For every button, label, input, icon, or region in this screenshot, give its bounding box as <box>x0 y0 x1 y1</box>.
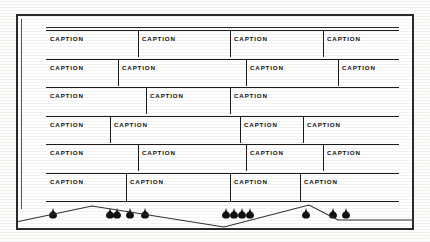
caption-segment[interactable]: CAPTION <box>146 87 230 116</box>
caption-label: CAPTION <box>234 92 268 99</box>
segment-divider <box>323 144 324 171</box>
bar-row: CAPTION CAPTION CAPTION CAPTION <box>46 30 399 59</box>
caption-label: CAPTION <box>304 178 338 185</box>
caption-label: CAPTION <box>142 35 176 42</box>
bar-row: CAPTION CAPTION CAPTION CAPTION <box>46 116 399 145</box>
caption-label: CAPTION <box>50 178 84 185</box>
caption-segment[interactable]: CAPTION <box>230 30 323 59</box>
bar-row: CAPTION CAPTION CAPTION <box>46 87 399 116</box>
segment-divider <box>138 30 139 57</box>
caption-segment[interactable]: CAPTION <box>46 144 138 173</box>
caption-segment[interactable]: CAPTION <box>46 116 110 145</box>
caption-label: CAPTION <box>250 64 284 71</box>
caption-segment[interactable]: CAPTION <box>138 30 230 59</box>
chart-frame-border: CAPTION CAPTION CAPTION CAPTION <box>16 14 414 230</box>
segment-divider <box>240 116 241 143</box>
caption-label: CAPTION <box>307 121 341 128</box>
scanned-page-background: CAPTION CAPTION CAPTION CAPTION <box>0 0 430 242</box>
caption-label: CAPTION <box>327 35 361 42</box>
caption-label: CAPTION <box>50 121 84 128</box>
caption-segment[interactable]: CAPTION <box>303 116 399 145</box>
caption-label: CAPTION <box>244 121 278 128</box>
caption-label: CAPTION <box>122 64 156 71</box>
segment-divider <box>230 87 231 114</box>
caption-segment[interactable]: CAPTION <box>246 59 338 88</box>
caption-segment[interactable]: CAPTION <box>46 30 138 59</box>
caption-label: CAPTION <box>234 35 268 42</box>
caption-segment[interactable]: CAPTION <box>323 30 399 59</box>
bar-row: CAPTION CAPTION CAPTION CAPTION <box>46 59 399 88</box>
caption-segment[interactable]: CAPTION <box>110 116 240 145</box>
segment-divider <box>246 144 247 171</box>
caption-segment[interactable]: CAPTION <box>46 59 118 88</box>
caption-label: CAPTION <box>50 92 84 99</box>
caption-segment[interactable]: CAPTION <box>138 144 246 173</box>
segment-divider <box>118 59 119 86</box>
caption-segment[interactable]: CAPTION <box>230 87 399 116</box>
caption-label: CAPTION <box>50 149 84 156</box>
caption-segment[interactable]: CAPTION <box>118 59 246 88</box>
caption-label: CAPTION <box>50 64 84 71</box>
schedule-grid-area: CAPTION CAPTION CAPTION CAPTION <box>46 30 399 201</box>
caption-segment[interactable]: CAPTION <box>240 116 303 145</box>
caption-label: CAPTION <box>50 35 84 42</box>
segment-divider <box>246 59 247 86</box>
caption-segment[interactable]: CAPTION <box>246 144 323 173</box>
caption-label: CAPTION <box>130 178 164 185</box>
segment-divider <box>110 116 111 143</box>
caption-label: CAPTION <box>114 121 148 128</box>
segment-divider <box>303 116 304 143</box>
segment-divider <box>230 30 231 57</box>
caption-label: CAPTION <box>150 92 184 99</box>
segment-divider <box>138 144 139 171</box>
caption-label: CAPTION <box>142 149 176 156</box>
caption-label: CAPTION <box>342 64 376 71</box>
caption-label: CAPTION <box>327 149 361 156</box>
caption-label: CAPTION <box>250 149 284 156</box>
status-zigzag-line <box>16 196 414 230</box>
caption-label: CAPTION <box>234 178 268 185</box>
status-line-svg <box>16 196 414 230</box>
bar-row: CAPTION CAPTION CAPTION CAPTION <box>46 144 399 173</box>
caption-segment[interactable]: CAPTION <box>323 144 399 173</box>
segment-divider <box>146 87 147 114</box>
segment-divider <box>338 59 339 86</box>
segment-divider <box>323 30 324 57</box>
caption-segment[interactable]: CAPTION <box>338 59 399 88</box>
caption-segment[interactable]: CAPTION <box>46 87 146 116</box>
